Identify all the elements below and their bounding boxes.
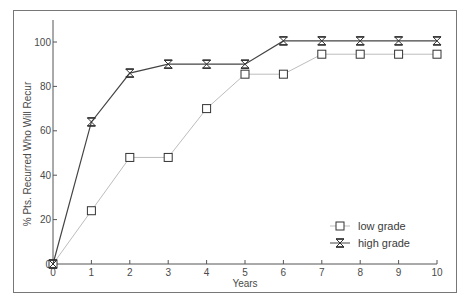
x-tick-label: 10 <box>431 267 443 278</box>
y-tick-label: 40 <box>40 170 52 181</box>
x-tick-label: 3 <box>165 267 171 278</box>
square-marker-icon <box>318 50 326 58</box>
square-marker-icon <box>395 50 403 58</box>
legend-label-high-grade: high grade <box>358 237 410 249</box>
square-marker-icon <box>203 105 211 113</box>
square-marker-icon <box>279 70 287 78</box>
x-tick-label: 5 <box>242 267 248 278</box>
y-tick-label: 60 <box>40 125 52 136</box>
x-tick-label: 2 <box>127 267 133 278</box>
square-marker-icon <box>336 222 344 230</box>
x-tick-label: 4 <box>204 267 210 278</box>
y-axis-label: % Pts. Recurred Who Will Recur <box>22 81 33 226</box>
chart-frame <box>14 11 457 293</box>
x-tick-label: 8 <box>357 267 363 278</box>
y-tick-label: 100 <box>34 37 51 48</box>
square-marker-icon <box>87 207 95 215</box>
square-marker-icon <box>356 50 364 58</box>
legend-label-low-grade: low grade <box>358 220 406 232</box>
x-tick-label: 7 <box>319 267 325 278</box>
square-marker-icon <box>433 50 441 58</box>
square-marker-icon <box>241 70 249 78</box>
x-axis-label: Years <box>232 278 257 289</box>
y-tick-label: 80 <box>40 81 52 92</box>
chart: 020406080100 012345678910 % Pts. Recurre… <box>0 0 464 303</box>
legend-item-high-grade: high grade <box>330 237 410 249</box>
square-marker-icon <box>126 153 134 161</box>
x-tick-label: 1 <box>89 267 95 278</box>
x-tick-label: 9 <box>396 267 402 278</box>
legend-item-low-grade: low grade <box>330 220 406 232</box>
y-tick-label: 20 <box>40 214 52 225</box>
square-marker-icon <box>164 153 172 161</box>
x-tick-label: 6 <box>281 267 287 278</box>
